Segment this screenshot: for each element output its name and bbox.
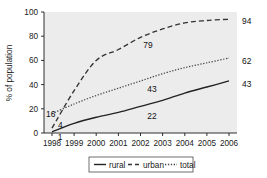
legend-label-total: total	[180, 161, 196, 170]
x-tick-label: 2001	[109, 139, 128, 148]
line-chart: 100 80 60 40 20 0 % of population 1998 1…	[0, 0, 267, 178]
data-label-urban-1998: 4	[58, 120, 63, 130]
plot-area-background	[44, 12, 237, 133]
data-label-total-1998: 16	[46, 109, 56, 119]
data-label-total-2006: 62	[242, 56, 252, 66]
chart-svg: 100 80 60 40 20 0 % of population 1998 1…	[0, 0, 267, 178]
x-tick-label: 2005	[198, 139, 217, 148]
data-label-urban-2006: 94	[242, 16, 252, 26]
x-tick-label: 1999	[65, 139, 84, 148]
legend-label-urban: urban	[143, 161, 164, 170]
x-tick-label: 2002	[131, 139, 150, 148]
data-label-total-2002: 43	[147, 84, 157, 94]
x-tick-label: 2000	[87, 139, 106, 148]
y-tick-label: 40	[29, 81, 39, 90]
y-tick-label: 100	[24, 8, 38, 17]
data-label-rural-2006: 43	[242, 79, 252, 89]
x-tick-label: 2003	[153, 139, 172, 148]
y-tick-label: 80	[29, 32, 39, 41]
data-label-rural-2002: 22	[147, 111, 157, 121]
x-tick-label: 2004	[176, 139, 195, 148]
legend-label-rural: rural	[109, 161, 126, 170]
x-tick-label: 2006	[220, 139, 239, 148]
y-tick-label: 0	[33, 129, 38, 138]
y-tick-label: 20	[29, 105, 39, 114]
data-label-rural-1998: 1	[58, 132, 63, 142]
y-tick-label: 60	[29, 56, 39, 65]
data-label-urban-2002: 79	[143, 40, 153, 50]
y-axis-title: % of population	[5, 44, 14, 101]
chart-legend: rural urban total	[89, 157, 196, 172]
